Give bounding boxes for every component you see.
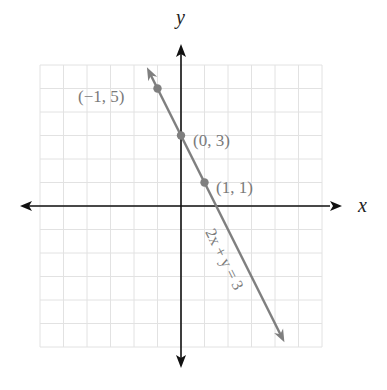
point-label-0-3: (0, 3) — [193, 131, 230, 150]
x-axis-label: x — [357, 194, 367, 216]
equation-label: 2x + y = 3 — [201, 226, 247, 293]
coordinate-plane: y x (−1, 5) (0, 3) (1, 1) 2x + y = 3 — [0, 0, 387, 390]
y-axis-label: y — [174, 6, 185, 29]
x-axis-right-arrow-icon — [330, 201, 342, 211]
line-2x-plus-y-equals-3 — [147, 67, 284, 342]
point-label-neg1-5: (−1, 5) — [78, 87, 124, 106]
data-point — [153, 84, 161, 92]
point-label-1-1: (1, 1) — [216, 178, 253, 197]
axes — [20, 44, 342, 368]
data-point — [177, 131, 185, 139]
data-point — [200, 178, 208, 186]
